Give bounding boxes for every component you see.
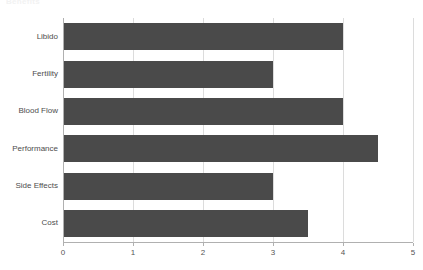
gridline xyxy=(273,18,274,242)
x-axis-tick-label: 1 xyxy=(123,248,143,258)
gridline xyxy=(203,18,204,242)
gridline xyxy=(343,18,344,242)
gridline xyxy=(133,18,134,242)
x-axis-tick-mark xyxy=(63,243,64,246)
bar xyxy=(63,23,343,50)
bar xyxy=(63,173,273,200)
x-axis-tick-mark xyxy=(203,243,204,246)
x-axis-tick-label: 4 xyxy=(333,248,353,258)
category-label: Libido xyxy=(2,32,58,42)
x-axis-line xyxy=(63,242,413,243)
bar xyxy=(63,135,378,162)
gridline xyxy=(413,18,414,242)
plot-area xyxy=(63,18,413,242)
y-axis-line xyxy=(63,18,64,242)
bar xyxy=(63,210,308,237)
bar-chart: Benefits LibidoFertilityBlood FlowPerfor… xyxy=(0,0,423,270)
category-label: Side Effects xyxy=(2,181,58,191)
x-axis-tick-mark xyxy=(273,243,274,246)
category-label: Fertility xyxy=(2,69,58,79)
x-axis-tick-mark xyxy=(133,243,134,246)
category-label-column: LibidoFertilityBlood FlowPerformanceSide… xyxy=(0,18,58,242)
bar xyxy=(63,98,343,125)
x-axis-tick-mark xyxy=(343,243,344,246)
category-label: Performance xyxy=(2,144,58,154)
x-axis-tick-label: 2 xyxy=(193,248,213,258)
bar xyxy=(63,61,273,88)
x-axis-tick-label: 5 xyxy=(403,248,423,258)
chart-title-fragment: Benefits xyxy=(6,0,40,6)
category-label: Blood Flow xyxy=(2,106,58,116)
x-axis-tick-label: 0 xyxy=(53,248,73,258)
category-label: Cost xyxy=(2,218,58,228)
x-axis-tick-mark xyxy=(413,243,414,246)
x-axis-tick-label: 3 xyxy=(263,248,283,258)
